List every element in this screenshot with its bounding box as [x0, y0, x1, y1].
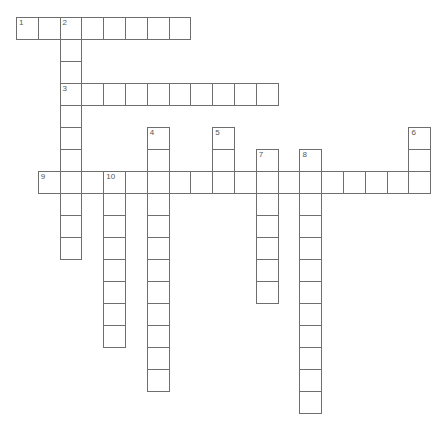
- crossword-cell[interactable]: [190, 83, 213, 106]
- crossword-cell[interactable]: [60, 171, 83, 194]
- crossword-cell[interactable]: [103, 303, 126, 326]
- crossword-cell[interactable]: 5: [212, 127, 235, 150]
- crossword-cell[interactable]: 3: [60, 83, 83, 106]
- crossword-cell[interactable]: [60, 61, 83, 84]
- crossword-cell[interactable]: [299, 369, 322, 392]
- crossword-cell[interactable]: [103, 281, 126, 304]
- crossword-cell[interactable]: [169, 17, 192, 40]
- crossword-cell[interactable]: [147, 193, 170, 216]
- crossword-grid: 12345678910: [0, 0, 443, 429]
- crossword-cell[interactable]: [147, 83, 170, 106]
- crossword-cell[interactable]: [147, 171, 170, 194]
- crossword-cell[interactable]: [147, 347, 170, 370]
- crossword-cell[interactable]: [299, 237, 322, 260]
- crossword-cell[interactable]: [408, 171, 431, 194]
- crossword-cell[interactable]: [125, 83, 148, 106]
- crossword-cell[interactable]: [299, 325, 322, 348]
- crossword-cell[interactable]: [81, 171, 104, 194]
- crossword-cell[interactable]: [147, 325, 170, 348]
- crossword-cell[interactable]: [299, 193, 322, 216]
- clue-number: 9: [41, 172, 45, 181]
- crossword-cell[interactable]: [60, 105, 83, 128]
- crossword-cell[interactable]: [343, 171, 366, 194]
- crossword-cell[interactable]: [60, 237, 83, 260]
- crossword-cell[interactable]: [169, 171, 192, 194]
- crossword-cell[interactable]: 4: [147, 127, 170, 150]
- crossword-cell[interactable]: [147, 303, 170, 326]
- crossword-cell[interactable]: [60, 215, 83, 238]
- crossword-cell[interactable]: [299, 281, 322, 304]
- crossword-cell[interactable]: [103, 17, 126, 40]
- crossword-cell[interactable]: [278, 171, 301, 194]
- crossword-cell[interactable]: 1: [16, 17, 39, 40]
- crossword-cell[interactable]: [212, 171, 235, 194]
- crossword-cell[interactable]: [125, 17, 148, 40]
- crossword-cell[interactable]: [299, 259, 322, 282]
- crossword-cell[interactable]: [256, 215, 279, 238]
- crossword-cell[interactable]: 7: [256, 149, 279, 172]
- crossword-cell[interactable]: [147, 281, 170, 304]
- clue-number: 6: [411, 128, 415, 137]
- crossword-cell[interactable]: [169, 83, 192, 106]
- crossword-cell[interactable]: [60, 39, 83, 62]
- crossword-cell[interactable]: 6: [408, 127, 431, 150]
- crossword-cell[interactable]: [256, 237, 279, 260]
- crossword-cell[interactable]: [60, 149, 83, 172]
- crossword-cell[interactable]: [256, 193, 279, 216]
- crossword-cell[interactable]: [147, 369, 170, 392]
- crossword-cell[interactable]: [299, 303, 322, 326]
- crossword-cell[interactable]: [147, 237, 170, 260]
- crossword-cell[interactable]: [365, 171, 388, 194]
- clue-number: 1: [19, 18, 23, 27]
- crossword-cell[interactable]: [147, 17, 170, 40]
- crossword-cell[interactable]: [321, 171, 344, 194]
- crossword-cell[interactable]: [81, 83, 104, 106]
- clue-number: 10: [106, 172, 115, 181]
- crossword-cell[interactable]: 9: [38, 171, 61, 194]
- crossword-cell[interactable]: [125, 171, 148, 194]
- crossword-cell[interactable]: [38, 17, 61, 40]
- crossword-cell[interactable]: [408, 149, 431, 172]
- crossword-cell[interactable]: [299, 391, 322, 414]
- crossword-cell[interactable]: [299, 347, 322, 370]
- crossword-cell[interactable]: [103, 325, 126, 348]
- crossword-cell[interactable]: [234, 83, 257, 106]
- crossword-cell[interactable]: [147, 215, 170, 238]
- crossword-cell[interactable]: [103, 237, 126, 260]
- crossword-cell[interactable]: [256, 281, 279, 304]
- crossword-cell[interactable]: [256, 83, 279, 106]
- clue-number: 8: [302, 150, 306, 159]
- crossword-cell[interactable]: [256, 171, 279, 194]
- crossword-cell[interactable]: [212, 83, 235, 106]
- crossword-cell[interactable]: [103, 259, 126, 282]
- crossword-cell[interactable]: 10: [103, 171, 126, 194]
- crossword-cell[interactable]: [299, 171, 322, 194]
- clue-number: 4: [150, 128, 154, 137]
- crossword-cell[interactable]: [81, 17, 104, 40]
- crossword-cell[interactable]: [299, 215, 322, 238]
- crossword-cell[interactable]: [387, 171, 410, 194]
- crossword-cell[interactable]: [103, 83, 126, 106]
- clue-number: 3: [63, 84, 67, 93]
- crossword-cell[interactable]: [190, 171, 213, 194]
- crossword-cell[interactable]: [103, 215, 126, 238]
- clue-number: 5: [215, 128, 219, 137]
- crossword-cell[interactable]: [147, 149, 170, 172]
- crossword-cell[interactable]: [212, 149, 235, 172]
- clue-number: 2: [63, 18, 67, 27]
- crossword-cell[interactable]: [147, 259, 170, 282]
- crossword-cell[interactable]: [60, 193, 83, 216]
- crossword-cell[interactable]: [234, 171, 257, 194]
- clue-number: 7: [259, 150, 263, 159]
- crossword-cell[interactable]: 8: [299, 149, 322, 172]
- crossword-cell[interactable]: 2: [60, 17, 83, 40]
- crossword-cell[interactable]: [103, 193, 126, 216]
- crossword-cell[interactable]: [256, 259, 279, 282]
- crossword-cell[interactable]: [60, 127, 83, 150]
